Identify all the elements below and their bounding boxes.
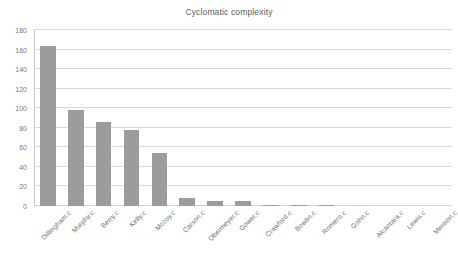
y-axis-tick-label: 0 [23,203,27,210]
y-axis-tick-label: 100 [15,105,27,112]
y-axis-tick-label: 80 [19,124,27,131]
x-axis-label-slot: Kelly.c [118,207,146,265]
x-axis-tick-labels: Dillingham.cMurphy.cBerry.cKelly.cMccoy.… [34,207,452,265]
y-axis-tick-label: 180 [15,27,27,34]
x-axis-label-slot: Romero.c [313,207,341,265]
x-axis-label-slot: Berry.c [90,207,118,265]
bar-slot[interactable] [152,30,168,206]
x-axis-label-slot: Gohn.c [341,207,369,265]
bar-slot[interactable] [179,30,195,206]
y-axis-tick-label: 40 [19,163,27,170]
bar-slot[interactable] [402,30,418,206]
bar-slot[interactable] [68,30,84,206]
x-axis-label-slot: Lewis.c [396,207,424,265]
x-axis-label-slot: Dillingham.c [34,207,62,265]
x-axis-label-slot: Alcantara.c [368,207,396,265]
bar[interactable] [68,110,84,206]
x-axis-label-slot: Carson.c [173,207,201,265]
y-axis-tick-label: 160 [15,46,27,53]
y-axis-tick-label: 60 [19,144,27,151]
plot-area [34,30,452,206]
y-axis-tick-label: 120 [15,85,27,92]
x-axis-label-slot: Crawford.c [257,207,285,265]
x-axis-label-slot: Obermeyer.c [201,207,229,265]
x-axis-label-slot: Gower.c [229,207,257,265]
bar[interactable] [179,198,195,206]
bar-slot[interactable] [347,30,363,206]
bar[interactable] [235,201,251,206]
cyclomatic-complexity-chart: Cyclomatic complexity 020406080100120140… [0,0,458,265]
bar-slot[interactable] [375,30,391,206]
bar-slot[interactable] [291,30,307,206]
bar[interactable] [124,130,140,206]
bar[interactable] [319,205,335,206]
bar-series [34,30,452,206]
bar-slot[interactable] [96,30,112,206]
bar[interactable] [40,46,56,206]
bar-slot[interactable] [40,30,56,206]
y-axis-tick-label: 140 [15,66,27,73]
bar[interactable] [96,122,112,206]
x-axis-tick-label: Mention.c [432,209,458,235]
bar-slot[interactable] [235,30,251,206]
bar-slot[interactable] [263,30,279,206]
bar-slot[interactable] [319,30,335,206]
x-axis-label-slot: Murphy.c [62,207,90,265]
bar[interactable] [291,205,307,206]
y-axis-tick-labels: 020406080100120140160180 [0,30,31,206]
bar-slot[interactable] [124,30,140,206]
bar[interactable] [263,205,279,206]
chart-title: Cyclomatic complexity [0,7,458,17]
bar[interactable] [152,153,168,206]
x-axis-label-slot: Mccoy.c [145,207,173,265]
y-axis-tick-label: 20 [19,183,27,190]
x-axis-label-slot: Mention.c [424,207,452,265]
bar[interactable] [207,201,223,206]
x-axis-label-slot: Bowlin.c [285,207,313,265]
bar-slot[interactable] [207,30,223,206]
bar-slot[interactable] [430,30,446,206]
x-axis-tick-label: Kelly.c [127,209,146,228]
x-axis-tick-label: Berry.c [99,209,119,229]
y-axis-line [34,30,35,207]
